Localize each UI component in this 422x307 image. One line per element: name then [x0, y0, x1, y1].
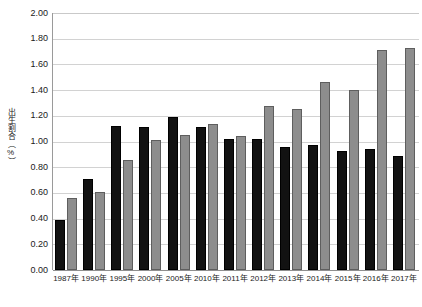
y-tick-label: 2.00: [30, 9, 48, 18]
bar: [95, 192, 105, 270]
bar: [67, 198, 77, 270]
bar: [196, 127, 206, 270]
bar: [180, 135, 190, 270]
bar-group: [53, 13, 81, 270]
bar-group: [391, 13, 419, 270]
x-tick-label: 2015年: [334, 274, 362, 284]
bar: [151, 140, 161, 270]
bar: [377, 50, 387, 270]
x-tick-label: 1987年: [52, 274, 80, 284]
bar: [337, 151, 347, 271]
x-tick-label: 2012年: [249, 274, 277, 284]
x-axis-tick-labels: 1987年1990年1995年2000年2005年2010年2011年2012年…: [52, 274, 418, 296]
x-tick-label: 2005年: [165, 274, 193, 284]
y-tick-label: 0.60: [30, 188, 48, 197]
bar: [264, 106, 274, 270]
bar: [111, 126, 121, 270]
bar: [320, 82, 330, 270]
bar-group: [194, 13, 222, 270]
plot-area: [52, 13, 419, 270]
x-tick-label: 1995年: [108, 274, 136, 284]
bar: [349, 90, 359, 270]
bar: [405, 48, 415, 270]
y-tick-label: 1.80: [30, 34, 48, 43]
y-axis-tick-labels: 0.000.200.400.600.801.001.201.401.601.80…: [14, 0, 50, 307]
bar-group: [109, 13, 137, 270]
bar: [55, 220, 65, 270]
bars-layer: [53, 13, 419, 270]
x-tick-label: 2011年: [221, 274, 249, 284]
y-axis-title: 出生割合（%）: [1, 108, 15, 165]
bar-group: [250, 13, 278, 270]
bar: [252, 139, 262, 270]
bar-chart: 出生割合（%） 0.000.200.400.600.801.001.201.40…: [0, 0, 422, 307]
gridline: [53, 270, 419, 271]
y-tick-label: 1.00: [30, 137, 48, 146]
bar: [224, 139, 234, 270]
x-tick-label: 2017年: [390, 274, 418, 284]
y-tick-label: 1.60: [30, 60, 48, 69]
bar: [308, 145, 318, 270]
x-tick-label: 2014年: [305, 274, 333, 284]
bar: [236, 136, 246, 270]
bar-group: [278, 13, 306, 270]
bar: [365, 149, 375, 270]
y-tick-label: 1.40: [30, 86, 48, 95]
bar-group: [166, 13, 194, 270]
bar-group: [81, 13, 109, 270]
x-tick-label: 2000年: [136, 274, 164, 284]
y-tick-label: 1.20: [30, 111, 48, 120]
bar-group: [363, 13, 391, 270]
bar-group: [137, 13, 165, 270]
y-tick-label: 0.20: [30, 240, 48, 249]
x-tick-label: 2010年: [193, 274, 221, 284]
x-tick-label: 2013年: [277, 274, 305, 284]
bar-group: [222, 13, 250, 270]
bar: [83, 179, 93, 270]
y-tick-label: 0.40: [30, 214, 48, 223]
bar-group: [306, 13, 334, 270]
bar: [123, 160, 133, 271]
bar: [280, 147, 290, 270]
bar: [292, 109, 302, 270]
bar: [168, 117, 178, 270]
bar-group: [335, 13, 363, 270]
y-tick-label: 0.00: [30, 266, 48, 275]
bar: [139, 127, 149, 270]
x-tick-label: 2016年: [362, 274, 390, 284]
x-tick-label: 1990年: [80, 274, 108, 284]
bar: [208, 124, 218, 270]
bar: [393, 156, 403, 270]
y-tick-label: 0.80: [30, 163, 48, 172]
